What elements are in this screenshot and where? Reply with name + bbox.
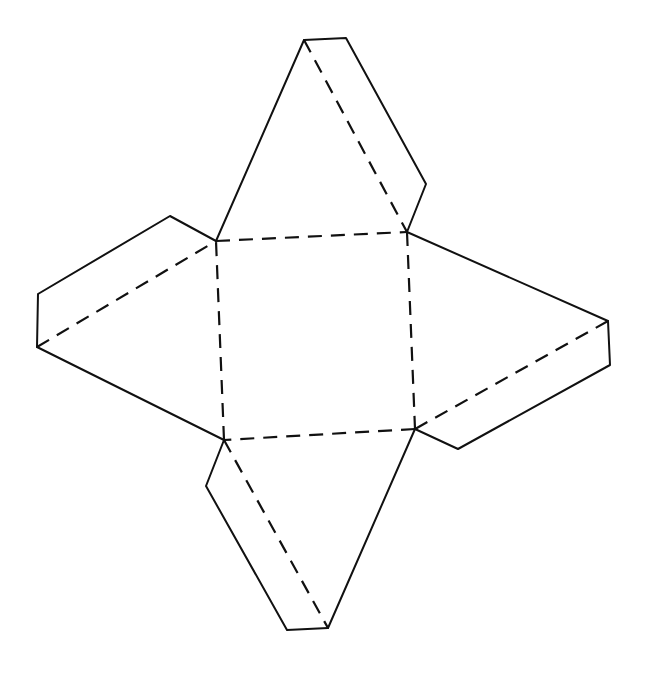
left-face-edge: [37, 347, 224, 440]
pyramid-net-diagram: [0, 0, 649, 678]
cut-lines: [37, 38, 610, 630]
bottom-tab-fold: [224, 440, 328, 628]
right-face-edge: [407, 232, 608, 321]
top-tab-fold: [304, 40, 407, 232]
bottom-face-edge: [328, 429, 415, 628]
top-glue-tab: [304, 38, 426, 232]
right-tab-fold: [415, 321, 608, 429]
fold-lines: [37, 40, 608, 628]
base-fold-edge: [224, 429, 415, 440]
base-fold-edge: [407, 232, 415, 429]
base-fold-edge: [216, 232, 407, 241]
base-fold-edge: [216, 241, 224, 440]
right-glue-tab: [415, 321, 610, 449]
top-face-edge: [216, 40, 304, 241]
bottom-glue-tab: [206, 440, 328, 630]
left-glue-tab: [37, 216, 216, 347]
diagram-svg: [0, 0, 649, 678]
left-tab-fold: [37, 241, 216, 347]
